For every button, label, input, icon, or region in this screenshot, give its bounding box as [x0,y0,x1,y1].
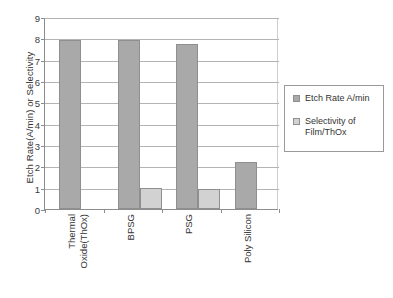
gridline [45,18,279,19]
legend-label-selectivity: Selectivity of Film/ThOx [305,116,356,138]
x-category-label-line: Oxide(ThOx) [78,214,90,298]
y-tick-label: 7 [35,55,40,66]
x-tick-mark [279,209,280,213]
bar-chart: Etch Rate(A/min) or Selectivity 01234567… [0,0,393,298]
bar [235,162,257,209]
y-tick-mark [41,125,45,126]
bar [140,188,162,209]
x-axis-labels: ThermalOxide(ThOx)BPSGPSGPoly Silicon [44,214,278,298]
y-tick-label: 8 [35,34,40,45]
bar [59,40,81,209]
dark-gray-swatch-icon [293,95,300,102]
y-tick-mark [41,61,45,62]
chart-legend: Etch Rate A/min Selectivity of Film/ThOx [284,85,384,152]
x-tick-mark [221,209,222,213]
y-tick-label: 5 [35,98,40,109]
y-tick-mark [41,167,45,168]
x-tick-mark [162,209,163,213]
x-category-label: Poly Silicon [242,214,268,298]
plot-area: 0123456789 [44,18,278,210]
y-tick-label: 4 [35,119,40,130]
x-tick-mark [104,209,105,213]
y-tick-mark [41,82,45,83]
bar [118,40,140,209]
x-tick-mark [45,209,46,213]
y-tick-mark [41,189,45,190]
y-tick-label: 6 [35,77,40,88]
x-category-label-line: Thermal [66,214,77,249]
legend-entry-selectivity: Selectivity of Film/ThOx [293,116,383,138]
y-tick-label: 1 [35,183,40,194]
y-axis-title: Etch Rate(A/min) or Selectivity [24,18,35,218]
x-category-label: PSG [183,214,209,298]
legend-label-etch-rate: Etch Rate A/min [305,93,370,104]
y-tick-label: 2 [35,162,40,173]
x-category-label-line: BPSG [125,214,136,240]
bar [198,189,220,209]
x-category-label-line: PSG [183,214,194,234]
y-tick-mark [41,146,45,147]
y-tick-label: 9 [35,13,40,24]
x-category-label-line: Poly Silicon [242,214,253,263]
y-tick-label: 0 [35,205,40,216]
x-category-label: BPSG [125,214,151,298]
y-tick-label: 3 [35,141,40,152]
light-gray-swatch-icon [293,118,300,125]
y-tick-mark [41,18,45,19]
y-tick-mark [41,103,45,104]
bar [176,44,198,209]
y-tick-mark [41,39,45,40]
x-category-label: ThermalOxide(ThOx) [66,214,92,298]
legend-entry-etch-rate: Etch Rate A/min [293,93,383,104]
